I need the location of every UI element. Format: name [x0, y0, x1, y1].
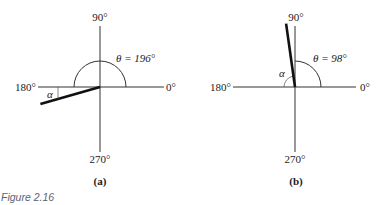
figure-caption: Figure 2.16: [1, 191, 54, 203]
panel-b-label-0: 0°: [360, 81, 370, 93]
panel-a: 90° 180° 0° 270° θ = 196° α (a): [15, 11, 176, 188]
panel-b-label-270: 270°: [285, 153, 306, 165]
panel-b-theta-arc: [295, 61, 321, 87]
panel-a-label-90: 90°: [92, 11, 107, 23]
panel-b-sublabel: (b): [289, 175, 303, 188]
panel-b-terminal-side: [286, 24, 295, 87]
panel-b-label-90: 90°: [288, 11, 303, 23]
panel-a-theta-label: θ = 196°: [116, 52, 156, 64]
figure-2-16: 90° 180° 0° 270° θ = 196° α (a) 90° 180°…: [0, 0, 385, 205]
panel-b-alpha-arc: [284, 76, 293, 87]
panel-b: 90° 180° 0° 270° θ = 98° α (b): [210, 11, 370, 188]
panel-a-sublabel: (a): [94, 175, 107, 188]
panel-a-alpha-label: α: [47, 88, 53, 100]
panel-b-label-180: 180°: [210, 81, 231, 93]
panel-a-label-180: 180°: [15, 81, 36, 93]
panel-a-label-270: 270°: [90, 153, 111, 165]
panel-a-label-0: 0°: [166, 81, 176, 93]
panel-b-theta-label: θ = 98°: [313, 52, 347, 64]
panel-b-alpha-label: α: [279, 67, 285, 79]
